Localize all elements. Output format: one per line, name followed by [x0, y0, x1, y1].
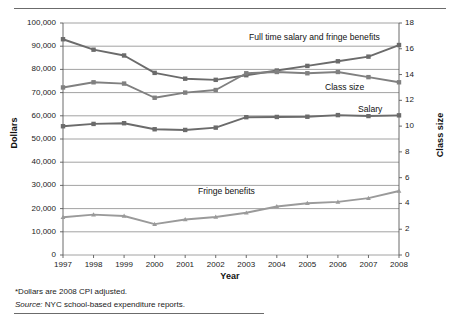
- y-tick-right-6: 6: [405, 173, 427, 182]
- y-tick-left-20000: 20,000: [12, 204, 56, 213]
- y-tick-left-10000: 10,000: [12, 227, 56, 236]
- series-label-class-size: Class size: [323, 82, 366, 92]
- y-tick-right-12: 12: [405, 95, 427, 104]
- x-tick-1999: 1999: [107, 260, 141, 269]
- y-tick-left-60000: 60,000: [12, 111, 56, 120]
- y-tick-right-18: 18: [405, 18, 427, 27]
- x-tick-1997: 1997: [46, 260, 80, 269]
- footnote-dollars: *Dollars are 2008 CPI adjusted.: [15, 287, 127, 296]
- x-tick-2007: 2007: [351, 260, 385, 269]
- y-tick-right-8: 8: [405, 147, 427, 156]
- y-tick-left-50000: 50,000: [12, 134, 56, 143]
- y-tick-right-2: 2: [405, 224, 427, 233]
- y-tick-left-80000: 80,000: [12, 64, 56, 73]
- footnote-source-text: NYC school-based expenditure reports.: [45, 300, 185, 309]
- y-tick-right-16: 16: [405, 44, 427, 53]
- x-tick-1998: 1998: [77, 260, 111, 269]
- bottom-divider-rule: [14, 313, 264, 314]
- y-axis-right-title: Class size: [435, 103, 445, 167]
- x-tick-2000: 2000: [138, 260, 172, 269]
- footnote-source-prefix: Source:: [15, 300, 43, 309]
- series-full-time-salary-and-fringe-benefits: [61, 37, 401, 82]
- series-label-fringe-benefits: Fringe benefits: [196, 186, 257, 196]
- figure: Dollars Class size Year 010,00020,00030,…: [0, 0, 460, 321]
- x-tick-2001: 2001: [168, 260, 202, 269]
- x-tick-2006: 2006: [321, 260, 355, 269]
- y-tick-left-90000: 90,000: [12, 41, 56, 50]
- x-axis-title: Year: [190, 271, 270, 281]
- y-tick-left-70000: 70,000: [12, 88, 56, 97]
- y-tick-right-14: 14: [405, 70, 427, 79]
- x-tick-2008: 2008: [382, 260, 416, 269]
- footnote-source: Source: NYC school-based expenditure rep…: [15, 300, 185, 309]
- y-tick-right-0: 0: [405, 250, 427, 259]
- y-tick-left-40000: 40,000: [12, 157, 56, 166]
- series-label-salary: Salary: [356, 104, 384, 114]
- x-tick-2002: 2002: [199, 260, 233, 269]
- series-label-full-time-salary-and-fringe-benefits: Full time salary and fringe benefits: [247, 32, 382, 42]
- x-tick-2003: 2003: [229, 260, 263, 269]
- y-tick-right-10: 10: [405, 121, 427, 130]
- y-tick-left-0: 0: [12, 250, 56, 259]
- y-tick-left-30000: 30,000: [12, 180, 56, 189]
- y-tick-left-100000: 100,000: [12, 18, 56, 27]
- x-tick-2005: 2005: [290, 260, 324, 269]
- x-tick-2004: 2004: [260, 260, 294, 269]
- y-tick-right-4: 4: [405, 198, 427, 207]
